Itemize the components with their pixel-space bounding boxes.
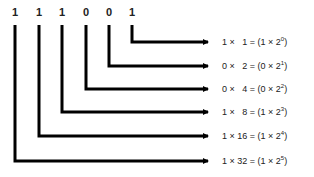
equation-row: 1 × 1 = (1 × 20)	[222, 36, 287, 47]
equation-row: 1 × 8 = (1 × 23)	[222, 106, 287, 117]
equation-row: 1 × 32 = (1 × 25)	[222, 155, 287, 166]
equation-row: 0 × 2 = (0 × 21)	[222, 60, 287, 71]
arrow-bit-5	[15, 25, 208, 161]
equation-row: 1 × 16 = (1 × 24)	[222, 130, 287, 141]
arrow-bit-2	[86, 25, 208, 89]
equation-row: 0 × 4 = (0 × 22)	[222, 83, 287, 94]
arrow-bit-1	[109, 25, 208, 66]
arrow-bit-3	[62, 25, 208, 112]
arrow-bit-0	[132, 25, 208, 42]
